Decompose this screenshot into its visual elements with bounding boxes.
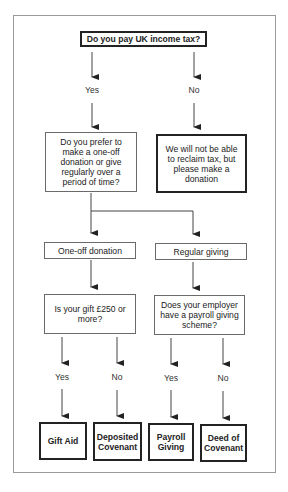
label-yes: Yes <box>156 373 186 383</box>
label-yes: Yes <box>47 372 77 382</box>
question-uk-income-tax: Do you pay UK income tax? <box>80 31 207 47</box>
label-yes: Yes <box>77 85 107 95</box>
outcome-payroll-giving: Payroll Giving <box>148 423 194 461</box>
outcome-gift-aid: Gift Aid <box>39 422 87 460</box>
label-no: No <box>179 85 209 95</box>
option-regular-giving: Regular giving <box>155 243 247 260</box>
outcome-deed-of-covenant: Deed of Covenant <box>200 424 247 462</box>
no-tax-message: We will not be able to reclaim tax, but … <box>156 134 247 193</box>
outcome-deposited-covenant: Deposited Covenant <box>93 422 142 461</box>
question-payroll-scheme: Does your employer have a payroll giving… <box>154 295 245 335</box>
label-no: No <box>102 372 132 382</box>
question-donation-preference: Do you prefer to make a one-off donation… <box>45 132 137 192</box>
option-one-off-donation: One-off donation <box>44 242 136 259</box>
question-gift-250: Is your gift £250 or more? <box>44 294 136 334</box>
label-no: No <box>208 373 238 383</box>
